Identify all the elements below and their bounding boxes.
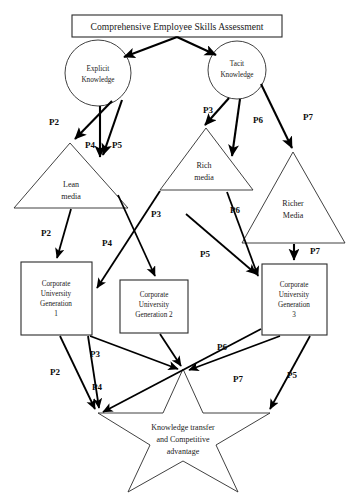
- edge-label-p4-cu2-star: P4: [92, 382, 102, 392]
- edge-title-to-tacit: [177, 37, 216, 55]
- richer-media-label-line2: Media: [283, 211, 304, 220]
- edge-lean-to-cu1-p2: [57, 209, 71, 258]
- diagram-canvas: Comprehensive Employee Skills Assessment…: [0, 0, 363, 496]
- edge-tacit-to-rich-p6: [232, 99, 240, 156]
- edge-label-p7-cu3-star: P7: [233, 374, 243, 384]
- corporate-university-3-label-line1: Corporate: [280, 281, 309, 289]
- rich-media-label-line2: media: [194, 173, 214, 182]
- corporate-university-3-label-line2: University: [279, 291, 310, 299]
- corporate-university-2-label-line1: Corporate: [140, 291, 169, 299]
- explicit-knowledge-label-line1: Explicit: [87, 65, 110, 73]
- corporate-university-3-box: [262, 264, 327, 335]
- tacit-knowledge-label-line2: Knowledge: [220, 71, 253, 79]
- richer-media-triangle: [242, 152, 345, 243]
- edge-label-p7-richer-cu3: P7: [310, 246, 320, 256]
- edge-label-p4-explicit-lean: P4: [85, 140, 95, 150]
- edge-explicit-to-lean-p2: [75, 101, 112, 139]
- corporate-university-1-box: [21, 262, 92, 335]
- edge-label-p3-tacit-rich: P3: [203, 105, 213, 115]
- edge-label-p6-tacit-rich: P6: [253, 115, 263, 125]
- outcome-star-label-line1: Knowledge transfer: [151, 423, 215, 432]
- edge-label-p6-cu3-left: P6: [217, 342, 227, 352]
- edge-label-p2-cu1-star: P2: [50, 367, 60, 377]
- edge-label-p6-rich-cu3: P6: [230, 205, 240, 215]
- corporate-university-3-label-line3: Generation: [278, 301, 310, 309]
- edge-label-p5-cu3-star: P5: [287, 370, 297, 380]
- edge-cu3-to-star-p7: [189, 336, 280, 370]
- lean-media-label-line2: media: [61, 192, 81, 201]
- explicit-knowledge-label-line2: Knowledge: [81, 76, 114, 84]
- lean-media-label-line1: Lean: [63, 180, 79, 189]
- corporate-university-1-label-line1: Corporate: [42, 280, 71, 288]
- tacit-knowledge-label-line1: Tacit: [230, 60, 244, 68]
- edge-label-p2-explicit-lean: P2: [49, 117, 59, 127]
- edge-label-p2-lean-cu1: P2: [41, 228, 51, 238]
- corporate-university-2-label-line2: University: [139, 301, 170, 309]
- edge-cu2-to-star: [160, 334, 181, 366]
- edge-label-p5-explicit-lean: P5: [112, 140, 122, 150]
- edge-tacit-to-richer-p7: [261, 84, 292, 148]
- corporate-university-1-label-line4: 1: [54, 310, 58, 318]
- rich-media-label-line1: Rich: [196, 161, 211, 170]
- edge-title-to-explicit: [124, 37, 177, 57]
- edge-label-p3-cu1-star: P3: [90, 349, 100, 359]
- corporate-university-3-label-line4: 3: [292, 311, 296, 319]
- edge-label-p4-lean-cu2: P4: [102, 238, 112, 248]
- corporate-university-1-label-line3: Generation: [40, 300, 72, 308]
- knowledge-transfer-diagram: Comprehensive Employee Skills Assessment…: [0, 0, 363, 496]
- edge-cu3-to-star-p6: [103, 329, 261, 412]
- edge-label-p5-rich-cu3: P5: [200, 249, 210, 259]
- corporate-university-1-label-line2: University: [41, 290, 72, 298]
- outcome-star-label-line2: and Competitive: [156, 435, 210, 444]
- edge-label-p7-tacit-richer: P7: [303, 112, 313, 122]
- explicit-knowledge-circle: [65, 40, 131, 106]
- outcome-star-label-line3: advantage: [167, 447, 200, 456]
- richer-media-label-line1: Richer: [282, 199, 304, 208]
- edge-label-p3-lean-rich-cross: P3: [151, 209, 161, 219]
- tacit-knowledge-circle: [208, 41, 266, 99]
- corporate-university-2-label-line3: Generation 2: [135, 311, 173, 319]
- title-box-label: Comprehensive Employee Skills Assessment: [91, 21, 264, 32]
